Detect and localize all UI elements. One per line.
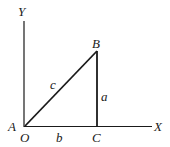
- y-axis-label: Y: [18, 4, 27, 19]
- vertex-c-label: C: [92, 130, 101, 145]
- origin-label: O: [20, 130, 30, 145]
- side-c: [25, 51, 97, 126]
- triangle-diagram: Y X B A O C c a b: [0, 0, 170, 147]
- side-c-label: c: [50, 77, 56, 92]
- x-axis-label: X: [153, 119, 163, 134]
- vertex-b-label: B: [92, 36, 100, 51]
- side-b-label: b: [56, 130, 63, 145]
- vertex-a-label: A: [7, 119, 16, 134]
- side-a-label: a: [101, 89, 108, 104]
